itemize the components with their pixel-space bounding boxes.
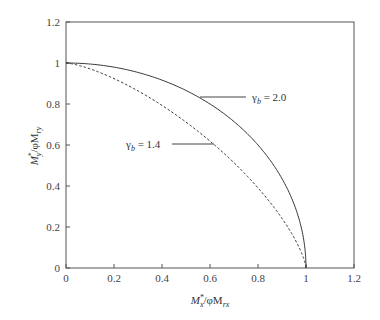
y-tick-label: 0.6 — [46, 139, 60, 151]
y-tick-label: 0.8 — [46, 98, 60, 110]
chart: 00.20.40.60.811.2 00.20.40.60.811.2 γb =… — [0, 0, 380, 320]
y-tick-label: 1.2 — [46, 16, 60, 28]
y-tick-label: 1 — [55, 57, 61, 69]
x-tick-label: 0.4 — [155, 272, 169, 284]
x-tick-label: 0.2 — [107, 272, 121, 284]
y-tick-label: 0.4 — [46, 180, 60, 192]
x-tick-label: 0.6 — [203, 272, 217, 284]
x-tick-label: 1 — [303, 272, 309, 284]
y-tick-label: 0.2 — [46, 221, 60, 233]
annotation-gamma-2: γb = 2.0 — [251, 91, 287, 106]
x-axis-label: M*x/φMrx — [190, 293, 230, 309]
x-axis-ticks: 00.20.40.60.811.2 — [63, 264, 361, 284]
x-tick-label: 0.8 — [251, 272, 265, 284]
y-axis-label: M*y/φMry — [27, 126, 43, 166]
annotation-gamma-1-4: γb = 1.4 — [125, 138, 161, 153]
plot-frame — [66, 22, 354, 268]
y-tick-label: 0 — [55, 262, 61, 274]
x-tick-label: 0 — [63, 272, 69, 284]
x-tick-label: 1.2 — [347, 272, 361, 284]
